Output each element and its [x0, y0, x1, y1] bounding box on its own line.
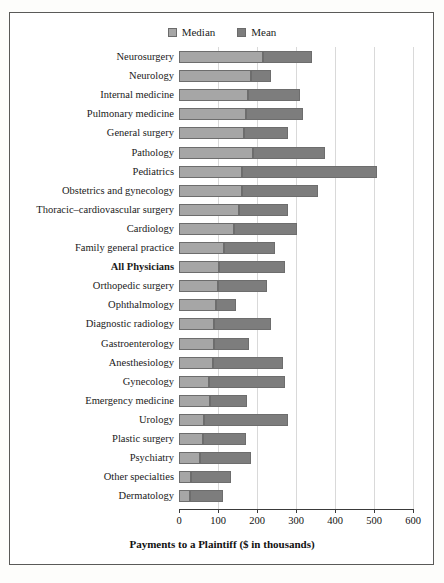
chart-row: Gynecology	[0, 372, 444, 392]
category-label: Psychiatry	[0, 448, 174, 468]
bar-group	[179, 376, 285, 388]
bar-segment-median	[179, 318, 214, 330]
bar-segment-median	[179, 280, 218, 292]
chart-row: Pediatrics	[0, 162, 444, 182]
bar-group	[179, 357, 283, 369]
bar-segment-mean	[219, 261, 285, 273]
x-tick-label: 100	[210, 515, 226, 526]
bar-group	[179, 223, 297, 235]
category-label: Thoracic–cardiovascular surgery	[0, 200, 174, 220]
bar-segment-median	[179, 223, 234, 235]
bar-segment-mean	[251, 70, 271, 82]
chart-row: Cardiology	[0, 219, 444, 239]
category-label: Orthopedic surgery	[0, 276, 174, 296]
chart-row: Pulmonary medicine	[0, 104, 444, 124]
category-label: Neurology	[0, 66, 174, 86]
x-tick	[335, 509, 336, 513]
bar-group	[179, 147, 325, 159]
x-tick-label: 200	[249, 515, 265, 526]
chart-row: Emergency medicine	[0, 391, 444, 411]
chart-row: Other specialties	[0, 467, 444, 487]
legend-swatch-median	[168, 28, 177, 37]
chart-row: Obstetrics and gynecology	[0, 181, 444, 201]
bar-segment-mean	[218, 280, 267, 292]
bar-segment-mean	[204, 414, 288, 426]
x-tick	[296, 509, 297, 513]
chart-row: Neurosurgery	[0, 47, 444, 67]
category-label: Neurosurgery	[0, 47, 174, 67]
x-tick	[374, 509, 375, 513]
category-label: Urology	[0, 410, 174, 430]
bar-segment-mean	[203, 433, 246, 445]
chart-row: Orthopedic surgery	[0, 276, 444, 296]
bar-segment-mean	[216, 299, 236, 311]
bar-group	[179, 108, 303, 120]
bar-segment-mean	[239, 204, 288, 216]
bar-group	[179, 414, 288, 426]
category-label: General surgery	[0, 123, 174, 143]
bar-segment-mean	[210, 395, 247, 407]
bar-segment-median	[179, 357, 213, 369]
bar-segment-median	[179, 89, 248, 101]
chart-row: General surgery	[0, 123, 444, 143]
bar-group	[179, 471, 231, 483]
chart-row: Anesthesiology	[0, 353, 444, 373]
bar-segment-median	[179, 127, 244, 139]
bar-segment-mean	[214, 338, 249, 350]
bar-segment-mean	[242, 185, 318, 197]
bar-segment-mean	[246, 108, 303, 120]
category-label: Plastic surgery	[0, 429, 174, 449]
x-tick-label: 500	[366, 515, 382, 526]
category-label: Gastroenterology	[0, 334, 174, 354]
chart-row: Ophthalmology	[0, 295, 444, 315]
bar-segment-mean	[248, 89, 300, 101]
category-label: Dermatology	[0, 486, 174, 506]
category-label: Emergency medicine	[0, 391, 174, 411]
bar-segment-mean	[209, 376, 285, 388]
x-tick-label: 300	[288, 515, 304, 526]
bar-segment-median	[179, 452, 200, 464]
bar-segment-mean	[224, 242, 275, 254]
chart-row: Neurology	[0, 66, 444, 86]
category-label: Obstetrics and gynecology	[0, 181, 174, 201]
bar-group	[179, 318, 271, 330]
bar-segment-mean	[242, 166, 377, 178]
bar-segment-median	[179, 185, 242, 197]
bar-group	[179, 261, 285, 273]
bar-group	[179, 299, 236, 311]
chart-row: Diagnostic radiology	[0, 314, 444, 334]
category-label: Ophthalmology	[0, 295, 174, 315]
chart-row: Gastroenterology	[0, 334, 444, 354]
chart-row: Plastic surgery	[0, 429, 444, 449]
bar-segment-median	[179, 147, 253, 159]
bar-segment-median	[179, 166, 242, 178]
legend-item-median: Median	[168, 26, 216, 38]
category-label: Other specialties	[0, 467, 174, 487]
bar-segment-median	[179, 490, 190, 502]
category-label: Cardiology	[0, 219, 174, 239]
legend-item-mean: Mean	[237, 26, 276, 38]
x-tick	[179, 509, 180, 513]
category-label: Pediatrics	[0, 162, 174, 182]
bar-segment-mean	[200, 452, 251, 464]
x-tick	[218, 509, 219, 513]
chart-row: Family general practice	[0, 238, 444, 258]
bar-segment-mean	[253, 147, 325, 159]
bar-group	[179, 185, 318, 197]
bar-group	[179, 490, 223, 502]
bar-group	[179, 166, 377, 178]
legend-label-median: Median	[182, 26, 216, 38]
chart-row: Dermatology	[0, 486, 444, 506]
category-label: Pulmonary medicine	[0, 104, 174, 124]
legend-label-mean: Mean	[251, 26, 276, 38]
bar-group	[179, 395, 247, 407]
bar-segment-mean	[234, 223, 297, 235]
chart-legend: Median Mean	[0, 26, 444, 38]
bar-segment-median	[179, 433, 203, 445]
bar-group	[179, 51, 312, 63]
chart-row: Psychiatry	[0, 448, 444, 468]
category-label: Pathology	[0, 143, 174, 163]
legend-swatch-mean	[237, 28, 246, 37]
bar-segment-median	[179, 204, 239, 216]
chart-row: Pathology	[0, 143, 444, 163]
